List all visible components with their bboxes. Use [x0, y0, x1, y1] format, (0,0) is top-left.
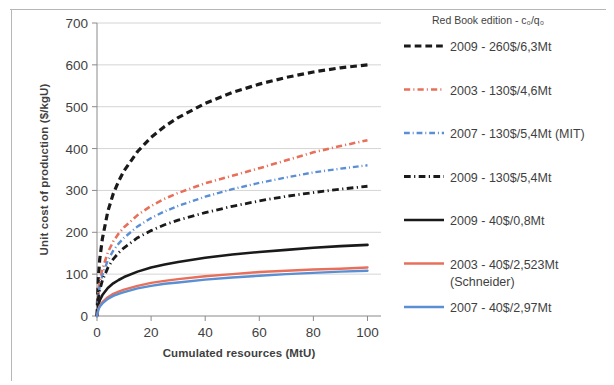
- x-tick-label: 100: [356, 325, 379, 340]
- x-tick-label: 40: [198, 325, 213, 340]
- x-tick-label: 80: [306, 325, 321, 340]
- legend-label-2[interactable]: 2007 - 130$/5,4Mt (MIT): [450, 127, 585, 141]
- legend-label-5[interactable]: 2003 - 40$/2,523Mt: [450, 258, 559, 272]
- legend-label-3[interactable]: 2009 - 130$/5,4Mt: [450, 171, 552, 185]
- x-tick-label: 0: [93, 325, 101, 340]
- legend-label-6[interactable]: 2007 - 40$/2,97Mt: [450, 301, 552, 315]
- legend-title: Red Book edition - c₀/q₀: [432, 14, 544, 26]
- series-line-1: [97, 140, 367, 316]
- x-tick-label: 60: [252, 325, 267, 340]
- legend-sublabel-5: (Schneider): [450, 275, 515, 289]
- series-line-4: [97, 245, 367, 316]
- series-line-2: [97, 165, 367, 316]
- y-tick-label: 100: [65, 267, 88, 282]
- y-tick-label: 600: [65, 58, 88, 73]
- legend-label-1[interactable]: 2003 - 130$/4,6Mt: [450, 84, 552, 98]
- y-axis-title: Unit cost of production ($/kgU): [38, 84, 50, 256]
- y-tick-label: 500: [65, 100, 88, 115]
- line-chart: 0100200300400500600700020406080100Cumula…: [0, 0, 614, 385]
- y-tick-label: 0: [80, 309, 88, 324]
- x-axis-title: Cumulated resources (MtU): [163, 347, 316, 359]
- series-line-3: [97, 186, 367, 316]
- x-tick-label: 20: [144, 325, 159, 340]
- legend-label-0[interactable]: 2009 - 260$/6,3Mt: [450, 40, 552, 54]
- series-line-6: [97, 271, 367, 316]
- y-tick-label: 300: [65, 183, 88, 198]
- series-line-5: [97, 267, 367, 316]
- legend-label-4[interactable]: 2009 - 40$/0,8Mt: [450, 214, 545, 228]
- chart-figure: 0100200300400500600700020406080100Cumula…: [0, 0, 614, 385]
- y-tick-label: 400: [65, 142, 88, 157]
- y-tick-label: 700: [65, 16, 88, 31]
- y-tick-label: 200: [65, 225, 88, 240]
